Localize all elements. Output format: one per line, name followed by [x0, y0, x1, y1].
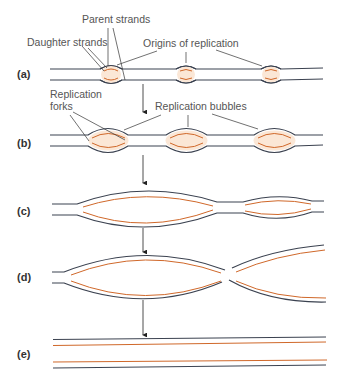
daughter-strand-e-1: [53, 342, 326, 346]
panel-c: [52, 191, 324, 227]
bubble-fill: [177, 67, 195, 83]
label-replication-forks-line1: Replication: [50, 88, 102, 100]
panel-label-c: (c): [17, 205, 30, 217]
label-parent-strands: Parent strands: [82, 13, 150, 25]
label-replication-bubbles: Replication bubbles: [155, 100, 247, 112]
panel-label-e: (e): [17, 348, 30, 360]
label-daughter-strands: Daughter strands: [27, 36, 108, 48]
panel-label-d: (d): [17, 271, 31, 283]
parent-strand-e-2: [53, 365, 326, 368]
parent-strand-e-1: [53, 337, 326, 340]
panel-b: [50, 112, 323, 153]
panel-label-b: (b): [17, 137, 31, 149]
panel-label-a: (a): [17, 68, 30, 80]
bubble-fill: [101, 66, 121, 84]
daughter-strand-e-2: [53, 360, 327, 362]
label-origins-of-replication: Origins of replication: [143, 37, 239, 49]
panel-e: [53, 337, 327, 368]
bubble-fill: [262, 67, 280, 83]
label-replication-forks-line2: forks: [50, 100, 73, 112]
dna-replication-diagram: [0, 0, 340, 380]
panel-d: [52, 245, 326, 302]
parent-strand-top-c: [52, 191, 324, 204]
